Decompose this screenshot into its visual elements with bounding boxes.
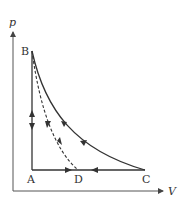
point-a-label: A <box>26 173 36 186</box>
pv-diagram: p V B A D C <box>0 0 187 206</box>
arrow-down-icon <box>29 123 35 130</box>
arrow-up-icon <box>29 110 35 117</box>
y-axis-label: p <box>9 16 16 29</box>
arrow-c-d-icon <box>91 167 98 173</box>
point-c-label: C <box>142 173 150 186</box>
curve-b-c <box>32 51 145 170</box>
x-axis-label: V <box>168 185 177 198</box>
point-b-label: B <box>21 45 29 58</box>
arrow-a-d-icon <box>65 167 72 173</box>
arrow-curve-2-icon <box>80 140 87 146</box>
arrow-dashed-1-icon <box>45 121 51 128</box>
point-d-label: D <box>74 173 83 186</box>
curve-b-d <box>32 51 78 170</box>
